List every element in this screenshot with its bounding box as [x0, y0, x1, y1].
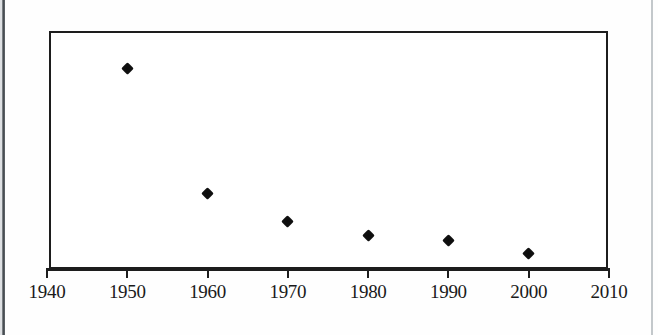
x-tick-label-1960: 1960: [168, 281, 248, 303]
scatter-chart: 19401950196019701980199020002010: [0, 0, 658, 335]
x-tick-1950: [126, 268, 128, 278]
x-tick-1940: [46, 268, 48, 278]
x-tick-label-1970: 1970: [248, 281, 328, 303]
x-tick-2010: [608, 268, 610, 278]
x-tick-label-1990: 1990: [408, 281, 488, 303]
x-tick-1990: [447, 268, 449, 278]
scanned-page: 19401950196019701980199020002010: [0, 0, 658, 335]
x-tick-1970: [287, 268, 289, 278]
x-tick-1980: [367, 268, 369, 278]
x-tick-label-1980: 1980: [328, 281, 408, 303]
x-tick-label-1940: 1940: [7, 281, 87, 303]
x-tick-1960: [207, 268, 209, 278]
x-tick-2000: [528, 268, 530, 278]
x-tick-label-2000: 2000: [489, 281, 569, 303]
x-tick-label-2010: 2010: [569, 281, 649, 303]
x-tick-label-1950: 1950: [87, 281, 167, 303]
x-axis-line: [47, 268, 610, 271]
